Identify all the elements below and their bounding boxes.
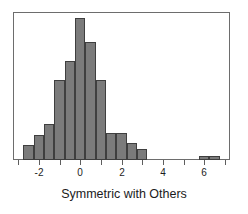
x-axis-tick-label: -2 — [19, 167, 59, 178]
x-axis-tick-label: 6 — [184, 167, 224, 178]
x-axis-tick — [122, 160, 123, 165]
x-axis-tick — [101, 160, 102, 165]
x-axis-tick — [142, 160, 143, 165]
x-axis-tick — [163, 160, 164, 165]
histogram-figure: -20246 Symmetric with Others — [0, 0, 248, 214]
x-axis-tick — [225, 160, 226, 165]
x-axis-tick — [60, 160, 61, 165]
x-axis-tick — [18, 160, 19, 165]
x-axis-tick — [204, 160, 205, 165]
x-axis-tick-label: 2 — [102, 167, 142, 178]
x-axis-tick — [80, 160, 81, 165]
x-axis-tick-label: 4 — [143, 167, 183, 178]
x-axis-tick-label: 0 — [60, 167, 100, 178]
x-axis-label: Symmetric with Others — [0, 187, 248, 201]
x-axis-tick — [184, 160, 185, 165]
x-axis-tick — [39, 160, 40, 165]
x-axis: -20246 — [0, 0, 248, 214]
